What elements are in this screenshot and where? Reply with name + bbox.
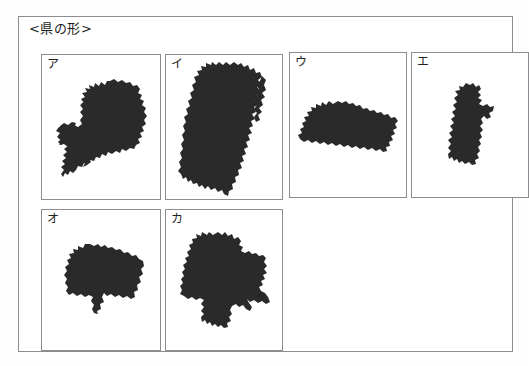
shape-panel-a[interactable]: ア (41, 54, 161, 200)
panel-label-e: エ (417, 55, 429, 70)
question-frame: <県の形> ア イ ウ (18, 16, 513, 352)
shape-panel-i[interactable]: イ (165, 54, 283, 200)
toyama-prefecture-silhouette (42, 210, 160, 350)
panel-label-u: ウ (295, 55, 307, 70)
panel-label-ka: カ (171, 212, 183, 227)
gunma-prefecture-silhouette (166, 210, 282, 350)
gifu-prefecture-silhouette (42, 55, 160, 199)
panel-label-o: オ (47, 212, 59, 227)
yamanashi-prefecture-silhouette (290, 53, 406, 197)
panel-label-a: ア (47, 57, 59, 72)
nagano-prefecture-silhouette (166, 55, 282, 199)
shape-panel-e[interactable]: エ (411, 52, 529, 198)
panel-label-i: イ (171, 57, 183, 72)
fukui-prefecture-silhouette (412, 53, 528, 197)
shape-panel-ka[interactable]: カ (165, 209, 283, 351)
page-title: <県の形> (29, 21, 92, 37)
shape-panel-u[interactable]: ウ (289, 52, 407, 198)
shape-panel-o[interactable]: オ (41, 209, 161, 351)
